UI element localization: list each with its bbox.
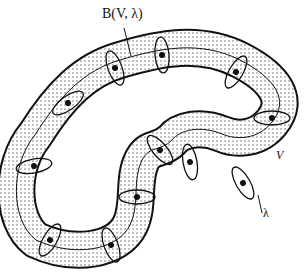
neighborhood-label: B(V, λ) (102, 6, 143, 22)
tubular-neighborhood-diagram (0, 0, 306, 274)
radius-label: λ (263, 206, 269, 221)
radius-leader-line (258, 195, 262, 213)
curve-label: V (276, 148, 283, 163)
